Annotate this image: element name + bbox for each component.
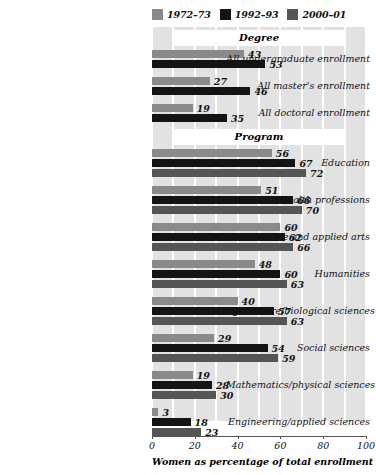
bar [152, 260, 255, 268]
legend-entry[interactable]: 1992–93 [220, 9, 279, 20]
legend-label: 2000–01 [302, 9, 346, 20]
x-axis-tick [238, 436, 239, 439]
bar-value-label: 70 [306, 206, 319, 215]
legend-entry[interactable]: 2000–01 [287, 9, 346, 20]
legend-label: 1992–93 [235, 9, 279, 20]
bar [152, 223, 280, 231]
category-label: Mathematics/physical sciences [226, 380, 376, 390]
category-label: Engineering/applied sciences [226, 417, 376, 427]
bar-value-label: 19 [197, 104, 210, 113]
bar-value-label: 63 [291, 280, 304, 289]
category-label: Health professions [226, 195, 376, 205]
bar [152, 418, 191, 426]
bar-value-label: 51 [265, 186, 278, 195]
bar [152, 243, 293, 251]
bar [152, 334, 214, 342]
x-axis-line [152, 436, 366, 437]
x-axis-tick-label: 80 [317, 440, 329, 451]
x-axis-tick [323, 436, 324, 439]
bar-value-label: 72 [310, 169, 323, 178]
x-axis-tick [366, 436, 367, 439]
bar [152, 354, 278, 362]
bar [152, 408, 158, 416]
bar [152, 297, 238, 305]
bar-value-label: 19 [197, 371, 210, 380]
legend-swatch-icon [220, 9, 231, 20]
bar [152, 169, 306, 177]
x-axis-tick-label: 40 [232, 440, 244, 451]
legend-entry[interactable]: 1972–73 [152, 9, 211, 20]
x-axis-tick [152, 436, 153, 439]
bar-value-label: 48 [259, 260, 272, 269]
bar-value-label: 29 [218, 334, 231, 343]
bar [152, 104, 193, 112]
bar [152, 114, 227, 122]
category-label: All undergraduate enrollment [226, 54, 376, 64]
bar-value-label: 30 [220, 391, 233, 400]
bar-value-label: 27 [214, 77, 227, 86]
category-label: Social sciences [226, 343, 376, 353]
legend-swatch-icon [287, 9, 298, 20]
bar [152, 381, 212, 389]
bar [152, 149, 272, 157]
category-label: Education [226, 158, 376, 168]
bar [152, 317, 287, 325]
bar-value-label: 59 [282, 354, 295, 363]
bar [152, 280, 287, 288]
chart-legend: 1972–731992–932000–01 [152, 4, 346, 24]
category-label: Fine and applied arts [226, 232, 376, 242]
x-axis-tick [195, 436, 196, 439]
bar [152, 391, 216, 399]
bar-value-label: 3 [162, 408, 169, 417]
category-label: Agriculture/biological sciences [226, 306, 376, 316]
bar [152, 206, 302, 214]
x-axis-tick-label: 60 [274, 440, 286, 451]
bar-value-label: 66 [297, 243, 310, 252]
x-axis-tick-label: 0 [149, 440, 155, 451]
enrollment-bar-chart: 1972–731992–932000–01 Degree435327461935… [0, 0, 376, 475]
bar-value-label: 63 [291, 317, 304, 326]
legend-label: 1972–73 [167, 9, 211, 20]
bar [152, 428, 201, 436]
x-axis-title: Women as percentage of total enrollment [152, 456, 366, 467]
category-label: All doctoral enrollment [226, 108, 376, 118]
x-axis-tick-label: 20 [189, 440, 201, 451]
x-axis-tick-label: 100 [357, 440, 375, 451]
bar [152, 186, 261, 194]
legend-swatch-icon [152, 9, 163, 20]
bar-value-label: 56 [276, 149, 289, 158]
bar [152, 77, 210, 85]
bar [152, 371, 193, 379]
category-label: All master's enrollment [226, 81, 376, 91]
category-label: Humanities [226, 269, 376, 279]
x-axis-tick [280, 436, 281, 439]
bar-value-label: 18 [195, 418, 208, 427]
